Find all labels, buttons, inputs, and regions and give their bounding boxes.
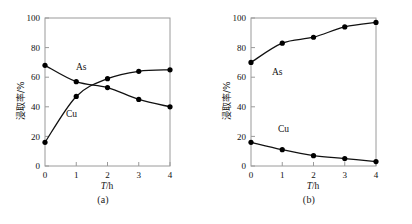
x-axis-title-b: T/h xyxy=(307,181,320,191)
data-point-cu xyxy=(280,147,285,152)
x-tick-label: 0 xyxy=(43,170,48,180)
x-axis-ticks-a: 01234 xyxy=(43,162,173,180)
data-point-cu xyxy=(105,76,110,81)
x-tick-label: 1 xyxy=(280,170,285,180)
plot-b: 020406080100 01234 As Cu 浸取率/% T/h xyxy=(206,0,412,224)
y-tick-label: 60 xyxy=(237,72,247,82)
y-tick-label: 20 xyxy=(237,132,247,142)
axes-frame xyxy=(251,18,376,166)
data-point-as xyxy=(280,41,285,46)
x-tick-label: 1 xyxy=(74,170,79,180)
x-axis-title-a-unit: /h xyxy=(106,181,114,191)
data-point-as xyxy=(248,60,253,65)
data-point-cu xyxy=(248,140,253,145)
data-point-as xyxy=(373,20,378,25)
series-label-as-a: As xyxy=(76,62,87,72)
plot-a: 020406080100 01234 As Cu 浸取率/% T/h xyxy=(0,0,206,224)
x-tick-label: 4 xyxy=(374,170,379,180)
series-label-cu-a: Cu xyxy=(66,109,77,119)
x-axis-title-b-unit: /h xyxy=(312,181,320,191)
x-tick-label: 3 xyxy=(137,170,142,180)
panel-a: 020406080100 01234 As Cu 浸取率/% T/h (a) xyxy=(0,0,206,224)
series-label-as-b: As xyxy=(272,67,283,77)
axes-frame xyxy=(45,18,170,166)
x-tick-label: 0 xyxy=(249,170,254,180)
panel-b: 020406080100 01234 As Cu 浸取率/% T/h (b) xyxy=(206,0,412,224)
data-point-as xyxy=(311,35,316,40)
y-tick-label: 40 xyxy=(237,102,247,112)
data-points-b xyxy=(248,20,378,164)
figure-two-panel-line-charts: 020406080100 01234 As Cu 浸取率/% T/h (a) 0… xyxy=(0,0,412,224)
y-axis-title-b: 浸取率/% xyxy=(221,81,232,120)
panel-b-caption: (b) xyxy=(206,194,412,205)
y-axis-title-a: 浸取率/% xyxy=(15,81,26,120)
x-tick-label: 2 xyxy=(105,170,110,180)
data-point-cu xyxy=(74,94,79,99)
x-axis-title-a: T/h xyxy=(101,181,114,191)
plot-b-frame xyxy=(251,18,376,166)
y-axis-ticks-a: 020406080100 xyxy=(27,13,50,171)
x-axis-ticks-b: 01234 xyxy=(249,162,379,180)
data-point-as xyxy=(105,85,110,90)
plot-a-frame xyxy=(45,18,170,166)
data-curves-b xyxy=(251,22,376,161)
data-point-cu xyxy=(167,67,172,72)
y-tick-label: 0 xyxy=(242,161,247,171)
curve-as xyxy=(251,22,376,62)
y-tick-label: 80 xyxy=(31,43,41,53)
data-point-cu xyxy=(42,140,47,145)
y-tick-label: 80 xyxy=(237,43,247,53)
curve-cu xyxy=(251,142,376,161)
data-point-as xyxy=(342,24,347,29)
data-point-cu xyxy=(373,159,378,164)
panel-a-caption: (a) xyxy=(0,194,206,205)
x-tick-label: 3 xyxy=(343,170,348,180)
data-point-cu xyxy=(136,69,141,74)
y-tick-label: 100 xyxy=(233,13,247,23)
series-label-cu-b: Cu xyxy=(278,124,289,134)
y-tick-label: 20 xyxy=(31,132,41,142)
x-tick-label: 2 xyxy=(311,170,316,180)
y-tick-label: 60 xyxy=(31,72,41,82)
data-point-as xyxy=(167,104,172,109)
data-point-cu xyxy=(311,153,316,158)
y-tick-label: 40 xyxy=(31,102,41,112)
x-tick-label: 4 xyxy=(168,170,173,180)
data-point-as xyxy=(74,79,79,84)
y-tick-label: 0 xyxy=(36,161,41,171)
y-tick-label: 100 xyxy=(27,13,41,23)
data-point-cu xyxy=(342,156,347,161)
data-point-as xyxy=(42,63,47,68)
y-axis-ticks-b: 020406080100 xyxy=(233,13,256,171)
data-point-as xyxy=(136,97,141,102)
